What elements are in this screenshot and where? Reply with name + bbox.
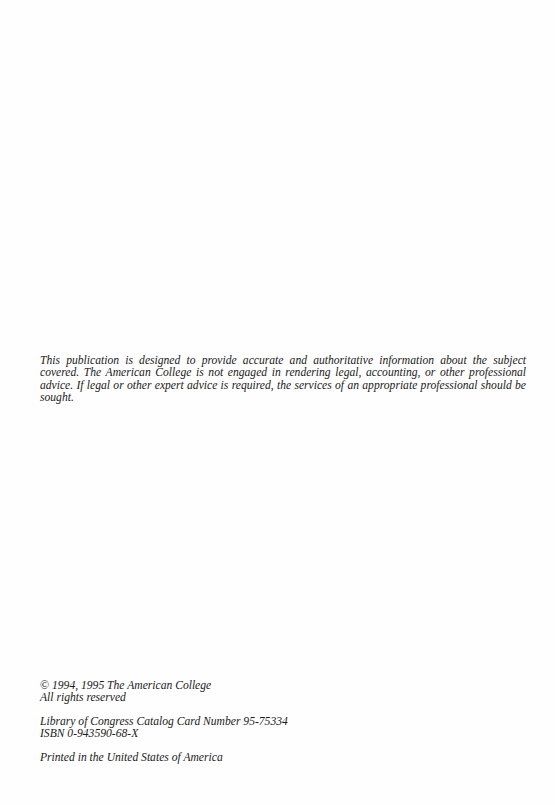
printed-block: Printed in the United States of America	[40, 752, 340, 764]
copyright-block: © 1994, 1995 The American College All ri…	[40, 679, 340, 705]
copyright-page: This publication is designed to provide …	[0, 0, 555, 805]
copyright-text: 1994, 1995 The American College	[49, 679, 211, 692]
copyright-symbol-icon: ©	[40, 678, 49, 692]
isbn-line: ISBN 0-943590-68-X	[40, 728, 340, 740]
colophon: © 1994, 1995 The American College All ri…	[40, 679, 340, 775]
printed-line: Printed in the United States of America	[40, 752, 340, 764]
copyright-line: © 1994, 1995 The American College	[40, 679, 340, 692]
disclaimer-paragraph: This publication is designed to provide …	[40, 355, 526, 404]
rights-line: All rights reserved	[40, 692, 340, 704]
catalog-block: Library of Congress Catalog Card Number …	[40, 716, 340, 741]
